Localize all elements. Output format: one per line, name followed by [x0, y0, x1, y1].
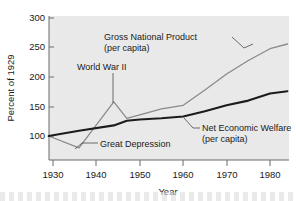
x-tick-label-1970: 1970	[216, 169, 237, 180]
x-tick-label-1940: 1940	[85, 169, 106, 180]
annotation-gnp-line1: Gross National Product	[104, 32, 198, 42]
x-tick-marks	[53, 160, 270, 166]
x-tick-label-1930: 1930	[42, 169, 63, 180]
annotation-gnp-line2: (per capita)	[104, 43, 150, 53]
annotation-great-depression: Great Depression	[100, 139, 171, 149]
chart-svg: 300 250 200 150 100 Percent of 1929 1930…	[0, 0, 296, 201]
y-tick-label-100: 100	[29, 130, 45, 141]
annotation-new-line2: (per capita)	[202, 134, 248, 144]
y-tick-label-300: 300	[29, 12, 45, 23]
page-bottom-artifact	[0, 192, 296, 201]
x-tick-label-1980: 1980	[259, 169, 280, 180]
x-tick-label-1960: 1960	[172, 169, 193, 180]
y-tick-label-200: 200	[29, 71, 45, 82]
y-tick-label-150: 150	[29, 101, 45, 112]
y-tick-label-250: 250	[29, 41, 45, 52]
y-axis-title: Percent of 1929	[5, 54, 16, 121]
x-tick-label-1950: 1950	[129, 169, 150, 180]
chart-figure: 300 250 200 150 100 Percent of 1929 1930…	[0, 0, 296, 201]
annotation-new-line1: Net Economic Welfare	[202, 123, 291, 133]
annotation-world-war-ii: World War II	[77, 62, 127, 72]
